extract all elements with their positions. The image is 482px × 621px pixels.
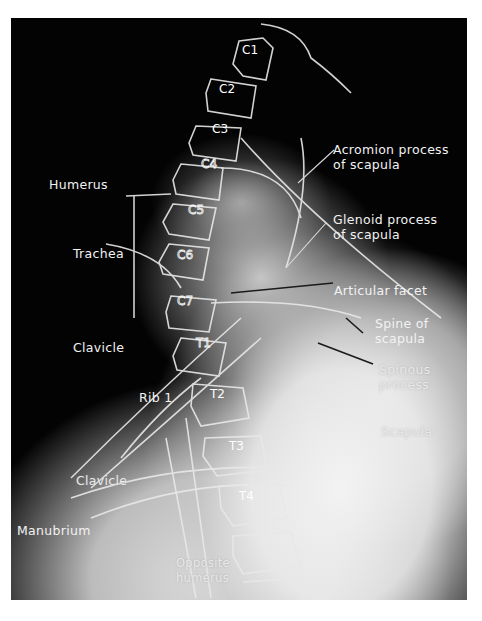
- label-opposite-humerus: Opposite humerus: [176, 556, 230, 586]
- label-trachea: Trachea: [73, 246, 124, 261]
- xray-image: C1 C2 C3 C4 C5 C6 C7 T1 T2 T3 T4 Humerus…: [11, 18, 467, 600]
- label-scapula: Scapula: [381, 424, 433, 439]
- vertebra-label-c1: C1: [242, 43, 258, 57]
- vertebra-label-c7: C7: [177, 294, 193, 308]
- label-acromion-process: Acromion process of scapula: [333, 142, 449, 172]
- label-manubrium: Manubrium: [17, 523, 91, 538]
- spinous-process-leader: [318, 343, 373, 364]
- vertebra-label-c4: C4: [201, 157, 217, 171]
- articular-facet-leader: [231, 283, 333, 293]
- vertebra-label-c6: C6: [177, 248, 193, 262]
- vertebra-label-c3: C3: [212, 122, 228, 136]
- bone-outlines: [11, 18, 467, 600]
- vertebra-label-c5: C5: [188, 203, 204, 217]
- vertebra-label-t2: T2: [210, 387, 225, 401]
- label-spinous-process: Spinous process: [379, 362, 430, 392]
- label-glenoid-process: Glenoid process of scapula: [333, 212, 437, 242]
- label-rib-1: Rib 1: [139, 390, 173, 405]
- label-articular-facet: Articular facet: [334, 283, 427, 298]
- label-clavicle-lower: Clavicle: [76, 473, 127, 488]
- vertebra-label-c2: C2: [219, 82, 235, 96]
- label-spine-of-scapula: Spine of scapula: [375, 316, 428, 346]
- label-humerus: Humerus: [49, 177, 108, 192]
- vertebra-label-t1: T1: [196, 336, 211, 350]
- vertebra-label-t3: T3: [229, 439, 244, 453]
- spine-of-scapula-leader: [346, 318, 363, 333]
- vertebra-label-t4: T4: [239, 489, 254, 503]
- label-clavicle-upper: Clavicle: [73, 340, 124, 355]
